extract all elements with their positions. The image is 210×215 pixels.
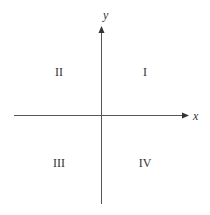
y-axis-label: y [102, 8, 109, 22]
quadrant-label-III: III [53, 156, 65, 170]
quadrant-label-IV: IV [139, 156, 152, 170]
x-axis-arrow-icon [182, 113, 189, 119]
coordinate-plane: y x II I III IV [0, 0, 210, 215]
y-axis-arrow-icon [99, 26, 105, 33]
x-axis-label: x [192, 109, 199, 123]
quadrant-label-I: I [143, 65, 147, 79]
quadrant-label-II: II [55, 65, 63, 79]
